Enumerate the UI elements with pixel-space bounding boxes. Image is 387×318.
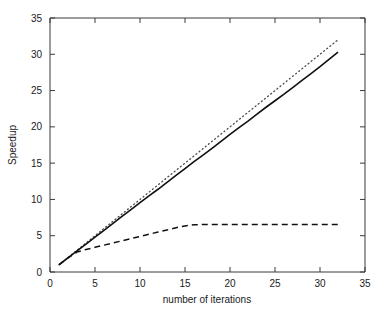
y-tick-label: 0 [36,267,42,278]
y-tick-label: 25 [31,85,43,96]
speedup-line-chart: 05101520253035 05101520253035 number of … [0,0,387,318]
x-tick-label: 25 [269,278,281,289]
x-tick-label: 35 [359,278,371,289]
x-tick-label: 5 [92,278,98,289]
y-tick-label: 30 [31,49,43,60]
y-tick-label: 35 [31,13,43,24]
chart-figure: 05101520253035 05101520253035 number of … [0,0,387,318]
series-measured-speedup [59,52,338,265]
x-tick-label: 0 [47,278,53,289]
x-tick-label: 15 [179,278,191,289]
series-saturating-speedup [59,224,338,264]
x-tick-label: 30 [314,278,326,289]
x-axis-tick-labels: 05101520253035 [47,278,371,289]
y-tick-label: 5 [36,230,42,241]
data-series-group [59,40,338,265]
y-tick-label: 15 [31,158,43,169]
x-tick-label: 20 [224,278,236,289]
y-tick-label: 10 [31,194,43,205]
y-tick-label: 20 [31,121,43,132]
y-axis-title: Speedup [7,125,18,165]
series-ideal-speedup [59,40,338,265]
x-tick-label: 10 [134,278,146,289]
y-axis-tick-labels: 05101520253035 [31,13,43,278]
x-axis-title: number of iterations [163,294,251,305]
